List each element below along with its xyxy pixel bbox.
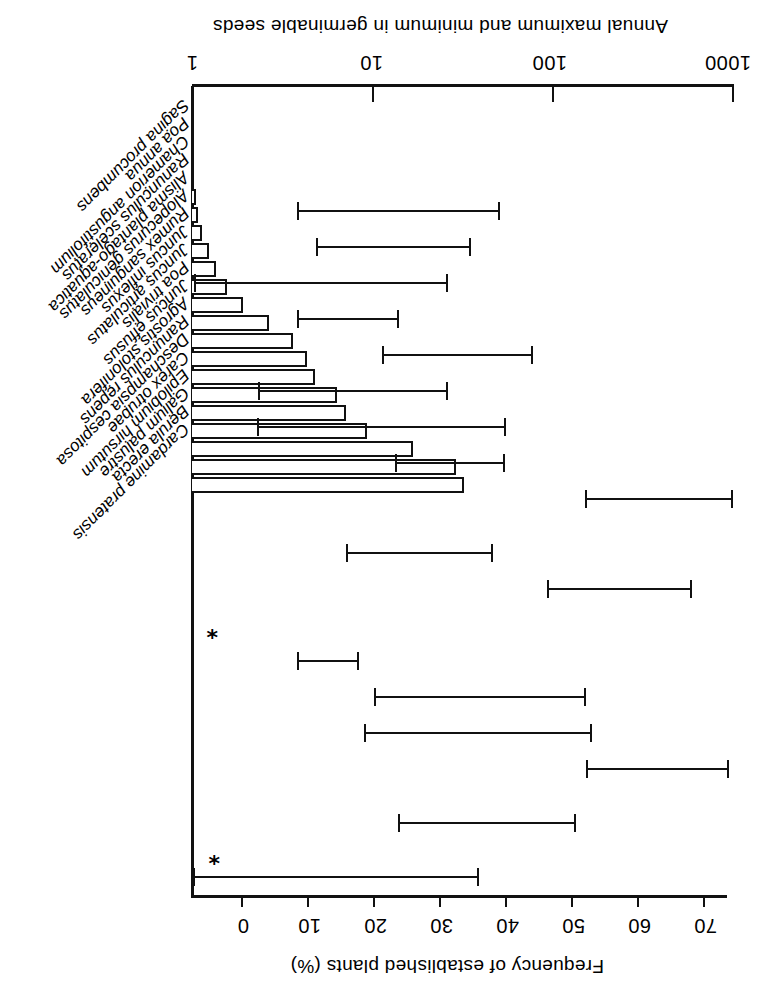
bottom-axis-title: Frequency of established plants (%)	[290, 955, 604, 977]
errorbar-cap-max-chamerion-angustifolium	[194, 274, 196, 292]
top-axis-title: Annual maximum and minimum in germinable…	[213, 15, 668, 37]
errorbar-cap-min-galium-palustre	[727, 760, 729, 778]
errorbar-epilobium-hirsutum	[364, 732, 592, 734]
errorbar-cap-min-deschampsia-cespitosa	[357, 652, 359, 670]
bar-juncus-effusus	[192, 297, 243, 313]
errorbar-cap-max-berula-erecta	[398, 814, 400, 832]
bottom-axis-tick-50	[571, 895, 573, 907]
errorbar-chamerion-angustifolium	[194, 282, 448, 284]
errorbar-poa-annua	[316, 246, 471, 248]
bottom-axis-ticklabel-60: 60	[628, 914, 651, 937]
errorbar-rumex-sanguineus	[257, 426, 506, 428]
errorbar-cap-min-sagina-procumbens	[498, 202, 500, 220]
bottom-axis-ticklabel-0: 0	[237, 914, 249, 937]
errorbar-cap-min-ranunculus-sceleratus	[397, 310, 399, 328]
top-axis-ticklabel-10: 10	[360, 51, 383, 74]
bar-juncus-inflexus	[192, 243, 209, 259]
bar-row-21	[192, 477, 464, 493]
top-axis-tick-10	[372, 86, 374, 102]
bar-cardamine-pratensis	[192, 441, 413, 457]
errorbar-cap-min-juncus-effusus	[491, 544, 493, 562]
errorbar-cap-max-poa-annua	[316, 238, 318, 256]
errorbar-cap-max-alopecurus-geniculatus	[258, 382, 260, 400]
bottom-axis-line	[192, 895, 727, 898]
errorbar-agrostis-stolonifera	[547, 588, 692, 590]
figure-canvas: 1000 100 10 1 Annual maximum and minimum…	[0, 0, 764, 999]
top-axis-line	[192, 84, 734, 87]
asterisk-marker-berula-erecta: *	[208, 845, 220, 867]
bottom-axis-tick-40	[505, 895, 507, 907]
errorbar-cap-min-berula-erecta	[574, 814, 576, 832]
rotated-figure-group: 1000 100 10 1 Annual maximum and minimum…	[0, 0, 764, 999]
errorbar-poa-trivialis	[585, 498, 733, 500]
top-axis-ticklabel-100: 100	[532, 51, 567, 74]
errorbar-alopecurus-geniculatus	[258, 390, 448, 392]
top-axis-tick-100	[552, 86, 554, 102]
errorbar-deschampsia-cespitosa	[297, 660, 359, 662]
bottom-axis-tick-0	[241, 895, 243, 907]
errorbar-cap-min-cardamine-pratensis	[477, 868, 479, 886]
bar-galium-palustre	[192, 405, 346, 421]
bar-agrostis-stolonifera	[192, 315, 269, 331]
errorbar-cap-min-poa-trivialis	[731, 490, 733, 508]
top-axis-tick-1000	[732, 86, 734, 102]
top-axis-ticklabel-1000: 1000	[705, 51, 752, 74]
bottom-axis-tick-70	[703, 895, 705, 907]
bottom-axis-tick-30	[439, 895, 441, 907]
errorbar-cap-min-rumex-sanguineus	[504, 418, 506, 436]
errorbar-cap-min-agrostis-stolonifera	[690, 580, 692, 598]
errorbar-sagina-procumbens	[297, 210, 500, 212]
errorbar-carex-otrubae	[374, 696, 586, 698]
errorbar-cap-max-ranunculus-sceleratus	[297, 310, 299, 328]
bar-ranunculus-sceleratus	[192, 171, 194, 187]
bar-chamerion-angustifolium	[192, 153, 194, 169]
errorbar-juncus-effusus	[346, 552, 493, 554]
bar-sagina-procumbens	[192, 117, 194, 133]
errorbar-cap-min-chamerion-angustifolium	[446, 274, 448, 292]
bottom-axis-tick-20	[373, 895, 375, 907]
bottom-axis-ticklabel-10: 10	[298, 914, 321, 937]
errorbar-cap-max-epilobium-hirsutum	[364, 724, 366, 742]
errorbar-cap-min-juncus-inflexus	[503, 454, 505, 472]
bottom-axis-tick-10	[307, 895, 309, 907]
errorbar-galium-palustre	[586, 768, 729, 770]
bottom-axis-ticklabel-70: 70	[694, 914, 717, 937]
bar-poa-annua	[192, 135, 194, 151]
errorbar-alisma-plantago-aquatica	[382, 354, 533, 356]
bottom-axis-tick-60	[637, 895, 639, 907]
bar-alopecurus-geniculatus	[192, 207, 198, 223]
bar-alisma-plantago-aquatica	[192, 189, 196, 205]
asterisk-marker-ranunculus-repens: *	[206, 619, 218, 641]
errorbar-cap-min-poa-annua	[469, 238, 471, 256]
errorbar-cap-min-epilobium-hirsutum	[590, 724, 592, 742]
errorbar-cap-max-poa-trivialis	[585, 490, 587, 508]
errorbar-cap-max-alisma-plantago-aquatica	[382, 346, 384, 364]
errorbar-cap-max-juncus-inflexus	[395, 454, 397, 472]
bottom-axis-ticklabel-40: 40	[496, 914, 519, 937]
errorbar-cap-max-rumex-sanguineus	[257, 418, 259, 436]
bar-rumex-sanguineus	[192, 225, 202, 241]
bottom-axis-ticklabel-20: 20	[364, 914, 387, 937]
errorbar-cap-max-cardamine-pratensis	[193, 868, 195, 886]
errorbar-cardamine-pratensis	[193, 876, 479, 878]
top-axis-ticklabel-1: 1	[186, 51, 198, 74]
errorbar-cap-max-galium-palustre	[586, 760, 588, 778]
bar-ranunculus-repens	[192, 333, 293, 349]
errorbar-cap-min-alisma-plantago-aquatica	[531, 346, 533, 364]
errorbar-ranunculus-sceleratus	[297, 318, 399, 320]
errorbar-cap-max-juncus-effusus	[346, 544, 348, 562]
errorbar-cap-min-carex-otrubae	[584, 688, 586, 706]
errorbar-juncus-inflexus	[395, 462, 505, 464]
bar-carex-otrubae	[192, 369, 315, 385]
bar-deschampsia-cespitosa	[192, 351, 307, 367]
bottom-axis-ticklabel-30: 30	[430, 914, 453, 937]
errorbar-cap-max-carex-otrubae	[374, 688, 376, 706]
errorbar-cap-max-sagina-procumbens	[297, 202, 299, 220]
errorbar-cap-max-agrostis-stolonifera	[547, 580, 549, 598]
errorbar-berula-erecta	[398, 822, 576, 824]
errorbar-cap-min-alopecurus-geniculatus	[446, 382, 448, 400]
bottom-axis-ticklabel-50: 50	[562, 914, 585, 937]
errorbar-cap-max-deschampsia-cespitosa	[297, 652, 299, 670]
